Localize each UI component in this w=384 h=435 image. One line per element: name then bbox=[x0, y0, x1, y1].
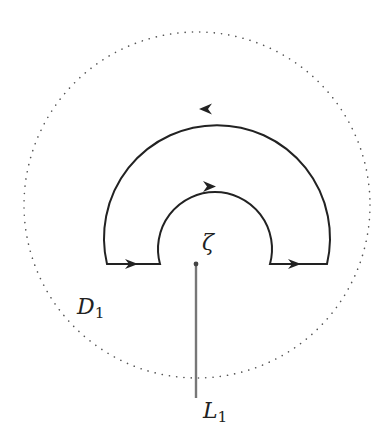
contour-diagram bbox=[0, 0, 384, 435]
disc-label-subscript: 1 bbox=[95, 304, 105, 322]
arrow-inner-arc-icon bbox=[203, 181, 216, 192]
disc-d1-label: D1 bbox=[77, 296, 104, 321]
cut-label-subscript: 1 bbox=[218, 408, 228, 426]
arrow-outer-arc-icon bbox=[199, 104, 212, 115]
branch-point bbox=[194, 262, 199, 267]
cut-l1-label: L1 bbox=[203, 400, 227, 425]
contour-path bbox=[104, 125, 330, 264]
zeta-label: ζ bbox=[202, 232, 214, 254]
disc-label-main: D bbox=[77, 294, 95, 319]
cut-label-main: L bbox=[203, 398, 218, 423]
